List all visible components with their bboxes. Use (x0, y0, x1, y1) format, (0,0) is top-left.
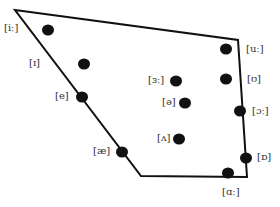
vowel-dot (222, 168, 234, 179)
vowel-dots (42, 25, 252, 179)
vowel-dot (76, 92, 88, 103)
vowel-label: [ɔː] (252, 106, 269, 116)
vowel-dot (179, 98, 191, 109)
vowel-dot (240, 153, 252, 164)
vowel-label: [ʌ] (157, 133, 170, 143)
vowel-label: [ə] (162, 97, 176, 107)
vowel-dot (234, 106, 246, 117)
vowel-label: [ʊ] (247, 74, 261, 84)
vowel-chart: [iː][ɪ][e][æ][ɜː][ə][ʌ][uː][ʊ][ɔː][ɒ][ɑː… (0, 0, 280, 207)
vowel-label: [æ] (93, 146, 110, 156)
vowel-dot (170, 76, 182, 87)
vowel-label: [ɑː] (222, 187, 240, 197)
vowel-dot (42, 25, 54, 36)
vowel-label: [iː] (4, 23, 18, 33)
vowel-label: [e] (55, 91, 69, 101)
vowel-dot (173, 134, 185, 145)
vowel-dot (220, 44, 232, 55)
vowel-label: [ɒ] (257, 152, 271, 162)
vowel-dot (220, 74, 232, 85)
vowel-quadrilateral (0, 0, 280, 207)
vowel-label: [ɪ] (29, 58, 40, 68)
vowel-label: [ɜː] (148, 75, 164, 85)
vowel-label: [uː] (246, 44, 264, 54)
vowel-dot (78, 59, 90, 70)
vowel-dot (116, 147, 128, 158)
